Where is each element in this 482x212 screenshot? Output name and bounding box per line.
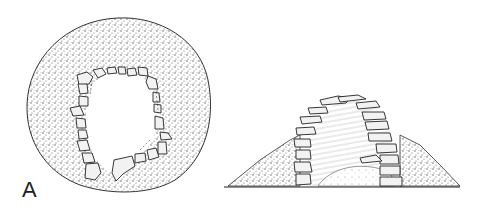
plan-view (27, 18, 211, 192)
mound-section (228, 135, 300, 186)
archaeological-illustration (0, 0, 482, 212)
panel-label: A (22, 177, 37, 203)
section-view (224, 95, 460, 187)
mound-section-right (400, 135, 460, 186)
